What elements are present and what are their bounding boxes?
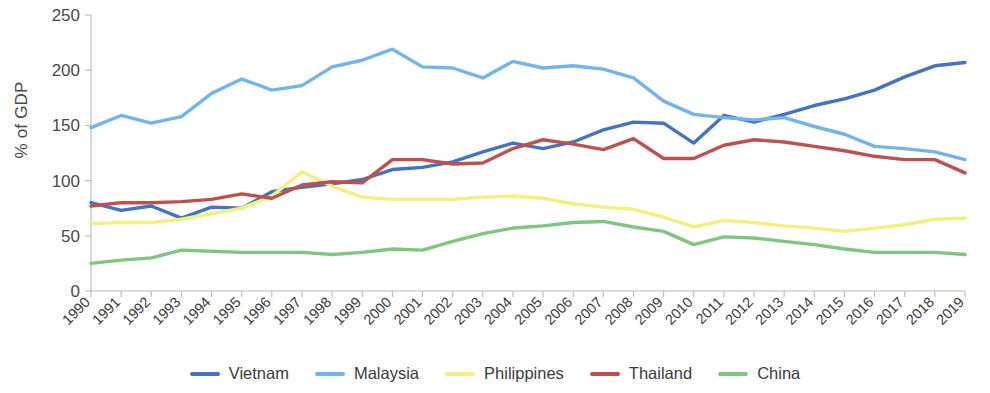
x-tick-label: 2001 [391, 294, 425, 328]
legend-swatch-icon [190, 372, 220, 376]
x-tick-label: 2005 [511, 294, 545, 328]
x-tick-label: 2012 [722, 294, 756, 328]
legend-label: Thailand [629, 364, 692, 383]
x-tick-label: 2013 [752, 294, 786, 328]
legend-swatch-icon [718, 372, 748, 376]
legend-label: China [757, 364, 800, 383]
legend: VietnamMalaysiaPhilippinesThailandChina [0, 364, 990, 383]
x-tick-label: 2009 [632, 294, 666, 328]
x-tick-label: 2019 [933, 294, 967, 328]
y-tick-label: 200 [52, 61, 80, 80]
x-tick-label: 1990 [59, 294, 93, 328]
x-tick-label: 2002 [421, 294, 455, 328]
legend-label: Malaysia [354, 364, 419, 383]
legend-item-vietnam[interactable]: Vietnam [190, 364, 289, 383]
series-line-vietnam [91, 62, 965, 218]
x-tick-label: 2014 [782, 294, 816, 328]
x-tick-label: 1996 [240, 294, 274, 328]
x-tick-label: 2015 [812, 294, 846, 328]
x-tick-label: 1994 [180, 294, 214, 328]
series-line-china [91, 221, 965, 263]
series-lines [91, 49, 965, 263]
y-tick-label: 150 [52, 116, 80, 135]
x-tick-label: 1995 [210, 294, 244, 328]
legend-swatch-icon [445, 372, 475, 376]
y-axis-tick-labels: 050100150200250 [52, 6, 80, 301]
legend-item-malaysia[interactable]: Malaysia [315, 364, 419, 383]
plot-area: 050100150200250 199019911992199319941995… [0, 0, 990, 360]
x-tick-label: 2018 [903, 294, 937, 328]
x-tick-label: 1998 [300, 294, 334, 328]
x-tick-label: 2011 [693, 294, 726, 327]
legend-swatch-icon [590, 372, 620, 376]
x-tick-label: 2003 [451, 294, 485, 328]
y-tick-label: 100 [52, 172, 80, 191]
y-axis-tick-marks [85, 15, 91, 291]
x-tick-label: 2007 [571, 294, 605, 328]
x-tick-label: 2008 [601, 294, 635, 328]
y-tick-label: 250 [52, 6, 80, 25]
x-tick-label: 1993 [149, 294, 183, 328]
legend-label: Philippines [484, 364, 564, 383]
x-tick-label: 1997 [270, 294, 304, 328]
x-tick-label: 1992 [119, 294, 153, 328]
x-tick-label: 2010 [662, 294, 696, 328]
x-tick-label: 2004 [481, 294, 515, 328]
legend-item-china[interactable]: China [718, 364, 800, 383]
legend-label: Vietnam [229, 364, 289, 383]
legend-item-philippines[interactable]: Philippines [445, 364, 564, 383]
line-chart: % of GDP 050100150200250 199019911992199… [0, 0, 990, 393]
legend-swatch-icon [315, 372, 345, 376]
x-tick-label: 2000 [360, 294, 394, 328]
x-tick-label: 2016 [843, 294, 877, 328]
y-tick-label: 50 [61, 227, 80, 246]
x-axis-tick-labels: 1990199119921993199419951996199719981999… [59, 294, 967, 328]
series-line-philippines [91, 172, 965, 232]
x-tick-label: 2017 [873, 294, 907, 328]
x-tick-label: 1991 [89, 294, 123, 328]
x-tick-label: 1999 [330, 294, 364, 328]
x-tick-label: 2006 [541, 294, 575, 328]
legend-item-thailand[interactable]: Thailand [590, 364, 692, 383]
